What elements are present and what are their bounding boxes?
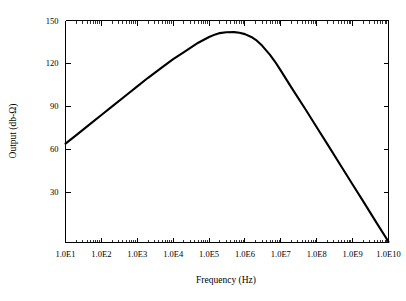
x-tick-label: 1.0E7	[271, 249, 291, 259]
x-tick-label: 1.0E8	[307, 249, 327, 259]
x-tick-label: 1.0E6	[235, 249, 255, 259]
y-tick-label: 150	[46, 16, 59, 26]
y-tick-label: 120	[46, 58, 59, 68]
y-axis-tick-labels: 306090120150	[46, 16, 59, 198]
y-tick-label: 30	[50, 187, 59, 197]
chart-figure: 1.0E11.0E21.0E31.0E41.0E51.0E61.0E71.0E8…	[0, 0, 406, 301]
plot-frame	[66, 21, 389, 243]
x-tick-label: 1.0E10	[376, 249, 400, 259]
x-tick-label: 1.0E4	[163, 249, 184, 259]
data-series-group	[66, 32, 389, 242]
y-axis-title: Output (db-Ω)	[8, 104, 19, 159]
x-tick-label: 1.0E2	[91, 249, 111, 259]
x-tick-label: 1.0E9	[343, 249, 363, 259]
y-tick-label: 90	[50, 101, 59, 111]
bode-plot-svg: 1.0E11.0E21.0E31.0E41.0E51.0E61.0E71.0E8…	[0, 0, 406, 301]
x-tick-label: 1.0E5	[199, 249, 219, 259]
axis-frame	[66, 21, 389, 243]
y-axis-major-ticks	[66, 21, 389, 193]
x-axis-tick-labels: 1.0E11.0E21.0E31.0E41.0E51.0E61.0E71.0E8…	[55, 249, 400, 259]
output-response-curve	[66, 32, 389, 242]
x-axis-minor-ticks	[76, 21, 387, 243]
x-tick-label: 1.0E1	[55, 249, 75, 259]
x-axis-major-ticks	[66, 21, 389, 243]
x-axis-title: Frequency (Hz)	[196, 275, 256, 286]
y-tick-label: 60	[50, 144, 59, 154]
x-tick-label: 1.0E3	[127, 249, 147, 259]
